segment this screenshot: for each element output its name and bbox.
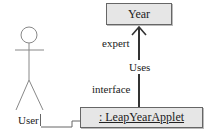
actor-user-label: User — [17, 114, 41, 126]
interface-role-label: interface — [92, 83, 130, 95]
uses-edge-label: Uses — [129, 61, 150, 73]
user-applet-link — [41, 121, 80, 127]
expert-role-label: expert — [102, 37, 129, 49]
leapyearapplet-object-label: : LeapYearApplet — [99, 110, 184, 125]
leapyearapplet-object-box[interactable]: : LeapYearApplet — [80, 107, 203, 128]
year-class-box[interactable]: Year — [106, 3, 172, 25]
actor-figure-icon — [15, 27, 44, 110]
year-class-label: Year — [128, 7, 150, 22]
